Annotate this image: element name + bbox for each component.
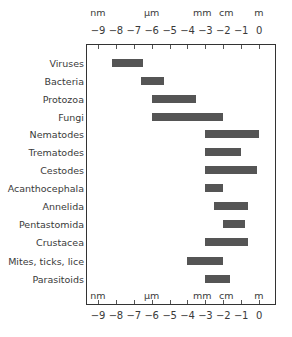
tick-mark (187, 45, 188, 49)
x-tick-label: −4 (180, 25, 194, 36)
tick-mark (134, 45, 135, 49)
x-tick-label: −7 (127, 25, 141, 36)
x-tick-label: −1 (234, 25, 248, 36)
category-label: Trematodes (29, 147, 84, 158)
tick-mark (98, 300, 99, 304)
category-label: Fungi (58, 112, 84, 123)
range-bar (205, 166, 257, 174)
range-bar (112, 59, 142, 67)
tick-mark (223, 45, 224, 49)
x-tick-label: −5 (162, 25, 176, 36)
unit-label-mm: mm (193, 290, 212, 301)
tick-mark (134, 300, 135, 304)
x-tick-label: −2 (216, 310, 230, 321)
range-bar (205, 275, 230, 283)
range-bar (205, 148, 241, 156)
x-tick-label: −8 (109, 25, 123, 36)
unit-label-nm: nm (90, 7, 105, 18)
plot-area (86, 44, 276, 305)
tick-mark (187, 300, 188, 304)
tick-mark (205, 300, 206, 304)
range-bar (141, 77, 164, 85)
tick-mark (259, 45, 260, 49)
x-tick-label: −5 (162, 310, 176, 321)
range-bar (205, 238, 248, 246)
tick-mark (98, 45, 99, 49)
x-tick-label: −1 (234, 310, 248, 321)
category-label: Parasitoids (32, 274, 84, 285)
range-bar (205, 184, 223, 192)
category-label: Annelida (42, 201, 84, 212)
category-label: Viruses (49, 58, 84, 69)
unit-label-um: µm (144, 7, 159, 18)
unit-label-m: m (254, 7, 263, 18)
tick-mark (116, 45, 117, 49)
tick-mark (259, 300, 260, 304)
x-tick-label: −6 (145, 310, 159, 321)
range-bar (205, 130, 259, 138)
category-label: Pentastomida (19, 219, 84, 230)
range-bar (152, 113, 224, 121)
x-tick-label: −4 (180, 310, 194, 321)
tick-mark (241, 45, 242, 49)
category-label: Bacteria (45, 75, 85, 86)
tick-mark (152, 300, 153, 304)
category-label: Crustacea (36, 237, 84, 248)
unit-label-cm: cm (219, 290, 233, 301)
tick-mark (223, 300, 224, 304)
x-tick-label: −2 (216, 25, 230, 36)
x-tick-label: −3 (198, 25, 212, 36)
range-bar (152, 95, 197, 103)
unit-label-mm: mm (193, 7, 212, 18)
x-tick-label: −9 (91, 310, 105, 321)
tick-mark (205, 45, 206, 49)
x-tick-label: −3 (198, 310, 212, 321)
range-bar (187, 257, 223, 265)
range-bar (214, 202, 248, 210)
x-tick-label: 0 (256, 310, 262, 321)
category-label: Acanthocephala (8, 183, 84, 194)
tick-mark (152, 45, 153, 49)
x-tick-label: −9 (91, 25, 105, 36)
x-tick-label: 0 (256, 25, 262, 36)
x-tick-label: −8 (109, 310, 123, 321)
category-label: Nematodes (30, 129, 84, 140)
category-label: Cestodes (40, 165, 84, 176)
unit-label-cm: cm (219, 7, 233, 18)
tick-mark (170, 45, 171, 49)
tick-mark (116, 300, 117, 304)
x-tick-label: −6 (145, 25, 159, 36)
category-label: Protozoa (43, 94, 84, 105)
category-label: Mites, ticks, lice (8, 256, 84, 267)
range-bar (223, 220, 244, 228)
tick-mark (241, 300, 242, 304)
x-tick-label: −7 (127, 310, 141, 321)
tick-mark (170, 300, 171, 304)
